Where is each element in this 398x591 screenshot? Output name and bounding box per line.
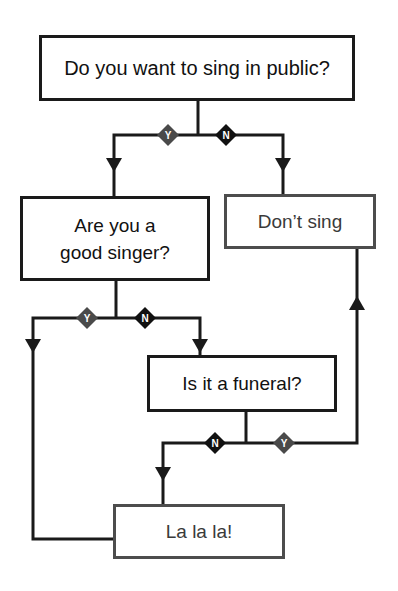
yes-diamond-icon	[157, 124, 179, 146]
node-label: Do you want to sing in public?	[64, 55, 330, 82]
arrow-down-icon	[25, 339, 41, 353]
node-label: La la la!	[166, 518, 233, 545]
connector-public-yes	[114, 135, 198, 197]
connector-funeral-no	[163, 443, 246, 505]
no-diamond-icon	[215, 124, 237, 146]
flowchart-canvas: Y N Y N N Y Do you want to sing in publi…	[0, 0, 398, 591]
connector-public-no	[198, 135, 283, 195]
connector-good-no	[116, 318, 200, 356]
connector-funeral-yes	[246, 247, 357, 443]
node-label-line2: good singer?	[60, 239, 170, 266]
node-label: Is it a funeral?	[182, 370, 301, 397]
node-good-singer: Are you a good singer?	[20, 196, 210, 281]
arrow-down-icon	[155, 467, 171, 481]
node-sing-in-public: Do you want to sing in public?	[39, 35, 355, 101]
no-diamond-icon	[204, 432, 226, 454]
yes-diamond-icon	[76, 307, 98, 329]
connector-good-yes	[33, 318, 116, 539]
no-diamond-icon	[134, 307, 156, 329]
arrow-down-icon	[275, 158, 291, 172]
arrow-up-icon	[349, 296, 365, 310]
arrow-down-icon	[192, 339, 208, 353]
arrow-down-icon	[106, 158, 122, 172]
node-la-la-la: La la la!	[113, 504, 285, 559]
node-funeral: Is it a funeral?	[147, 355, 337, 412]
yes-diamond-icon	[273, 432, 295, 454]
node-dont-sing: Don’t sing	[224, 194, 376, 249]
node-label-line1: Are you a	[60, 212, 170, 239]
node-label: Don’t sing	[258, 208, 343, 235]
